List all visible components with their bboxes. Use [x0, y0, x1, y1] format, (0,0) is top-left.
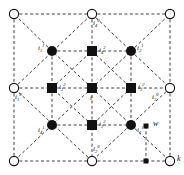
label-node-i1-0: i10: [15, 94, 22, 101]
lattice-svg: [0, 0, 184, 175]
label-node-i2-1: i21: [137, 45, 144, 52]
node-i4-0: [87, 9, 96, 18]
label-node-i2-2: i22: [99, 121, 106, 128]
label-node-i-center: i: [90, 95, 92, 102]
node-i1-1: [47, 46, 57, 56]
label-node-i2-0: i20: [93, 146, 100, 153]
node-i1-0: [9, 83, 18, 92]
node-i4-2: [87, 46, 97, 56]
label-node-i1-1: i11: [38, 45, 45, 52]
node-i3-2: [126, 83, 136, 93]
node-i-center: [87, 83, 97, 93]
outer-diagonal-sw: [14, 125, 52, 161]
legend-label-w: w: [153, 120, 158, 128]
node-i2-2: [87, 120, 97, 130]
label-node-i4-1: i41: [38, 127, 45, 134]
corner-bottom-right: [165, 156, 174, 165]
label-node-i3-0: i30: [152, 94, 159, 101]
node-i3-1: [126, 120, 136, 130]
node-i2-0: [87, 156, 96, 165]
node-i3-0: [165, 83, 174, 92]
corner-top-left: [9, 9, 18, 18]
node-i1-2: [47, 83, 57, 93]
lattice-neighborhood-figure: i10 i20 i30 i40 i11 i21 i31 i41 i12 i22 …: [0, 0, 184, 175]
label-node-i1-2: i12: [59, 84, 66, 91]
node-i2-1: [126, 46, 136, 56]
legend-tick-bottom-square: [144, 159, 149, 164]
label-node-i4-2: i42: [99, 47, 106, 54]
legend-w-square: [144, 124, 149, 129]
corner-bottom-left: [9, 156, 18, 165]
outer-diagonal-nw: [14, 14, 52, 51]
node-i4-1: [47, 120, 57, 130]
legend-label-k: k: [177, 155, 181, 163]
corner-top-right: [165, 9, 174, 18]
label-node-i3-2: i32: [138, 84, 145, 91]
label-node-i4-0: i40: [93, 20, 100, 27]
label-node-i3-1: i31: [137, 127, 144, 134]
